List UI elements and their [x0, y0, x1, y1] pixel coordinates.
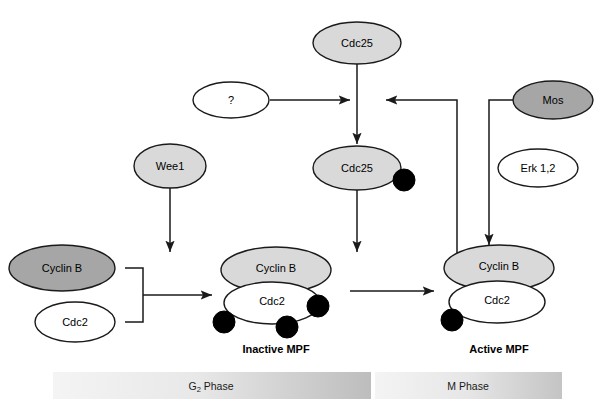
node-erk[interactable]: Erk 1,2 [498, 149, 578, 187]
phase-g2-letter: G [188, 380, 196, 392]
node-inactive-cyclin-b-label: Cyclin B [256, 262, 296, 274]
active-mpf-caption: Active MPF [469, 343, 529, 355]
node-unknown-label: ? [228, 94, 234, 106]
node-unknown[interactable]: ? [193, 82, 269, 118]
phase-bar-g2: G2 Phase [53, 372, 371, 399]
complex-inactive-mpf[interactable]: Cyclin B Cdc2 Inactive MPF [213, 247, 331, 355]
node-wee1[interactable]: Wee1 [134, 144, 206, 188]
node-mos[interactable]: Mos [513, 81, 593, 119]
phosphate-icon [307, 295, 329, 317]
node-cdc2-free-label: Cdc2 [62, 316, 88, 328]
node-inactive-cdc2-label: Cdc2 [259, 295, 285, 307]
pathway-diagram: Cdc25 ? Mos Erk 1,2 Cdc25 Wee1 [0, 0, 614, 419]
node-cdc25-phosphorylated[interactable]: Cdc25 [313, 146, 415, 191]
node-cdc25-phos-label: Cdc25 [341, 162, 373, 174]
node-erk-label: Erk 1,2 [521, 162, 556, 174]
node-wee1-label: Wee1 [156, 160, 185, 172]
node-active-cyclin-b-label: Cyclin B [479, 260, 519, 272]
node-active-cdc2-label: Cdc2 [484, 294, 510, 306]
connector-bracket-to-inactive-mpf [125, 268, 212, 322]
node-cdc25-top-label: Cdc25 [341, 37, 373, 49]
complex-active-mpf[interactable]: Cyclin B Cdc2 Active MPF [441, 245, 554, 355]
connector-active-mpf-feedback [386, 100, 457, 283]
inactive-mpf-caption: Inactive MPF [242, 343, 310, 355]
phase-g2-suffix: Phase [201, 380, 234, 392]
phosphate-icon [393, 169, 415, 191]
phase-bar-m: M Phase [375, 372, 562, 399]
phase-bar-m-label: M Phase [447, 380, 489, 392]
phosphate-icon [276, 316, 298, 338]
node-cyclin-b-free[interactable]: Cyclin B [9, 245, 115, 291]
node-cdc25-top[interactable]: Cdc25 [313, 22, 401, 64]
node-cyclin-b-free-label: Cyclin B [42, 262, 82, 274]
phosphate-icon [441, 309, 463, 331]
node-cdc2-free[interactable]: Cdc2 [35, 302, 115, 342]
phosphate-icon [213, 311, 235, 333]
node-mos-label: Mos [543, 94, 564, 106]
